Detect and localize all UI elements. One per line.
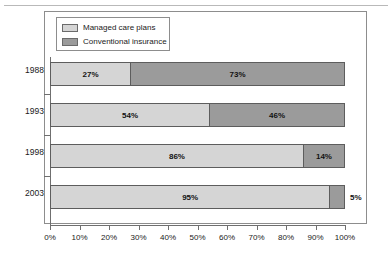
light-gray-swatch-icon [62,24,78,32]
stacked-bar-1998: 86% 14% [50,144,345,168]
x-axis-label-60: 60% [219,233,235,242]
bar-row-1993: 54% 46% [50,103,345,127]
bars-container: 27% 73% 54% 46% 86% [50,57,345,225]
x-axis-label-0: 0% [44,233,56,242]
bar-segment-managed-1993: 54% [51,104,209,126]
x-axis-label-50: 50% [189,233,205,242]
x-axis-tick [139,225,140,230]
x-axis-tick [316,225,317,230]
x-axis-tick [50,225,51,230]
bar-value-label-managed-1998: 86% [169,152,185,161]
y-axis-label-2003: 2003 [4,188,44,198]
bar-segment-managed-2003: 95% [51,186,329,208]
x-axis-tick [286,225,287,230]
bar-value-label-managed-1988: 27% [83,70,99,79]
bar-value-label-managed-2003: 95% [182,193,198,202]
stacked-bar-1988: 27% 73% [50,62,345,86]
bar-row-1988: 27% 73% [50,62,345,86]
bar-segment-conventional-2003: 5% [329,186,344,208]
legend-item-conventional-insurance: Conventional insurance [62,35,169,48]
bar-segment-conventional-1993: 46% [209,104,344,126]
y-axis-label-1993: 1993 [4,106,44,116]
stacked-bar-2003: 95% 5% [50,185,345,209]
x-axis-label-90: 90% [307,233,323,242]
x-axis-tick [345,225,346,230]
y-axis-label-1988: 1988 [4,65,44,75]
bar-row-2003: 95% 5% [50,185,345,209]
legend-item-managed-care-plans: Managed care plans [62,21,169,34]
bar-segment-conventional-1988: 73% [130,63,344,85]
y-axis-label-1998: 1998 [4,147,44,157]
bar-value-label-conventional-2003: 5% [350,193,362,202]
bar-segment-managed-1988: 27% [51,63,130,85]
bar-row-1998: 86% 14% [50,144,345,168]
x-axis-label-30: 30% [130,233,146,242]
legend-label-managed-care-plans: Managed care plans [83,23,156,32]
x-axis-label-10: 10% [71,233,87,242]
x-axis-label-40: 40% [160,233,176,242]
bar-segment-managed-1998: 86% [51,145,303,167]
x-axis-tick [227,225,228,230]
bar-value-label-conventional-1993: 46% [269,111,285,120]
top-divider-rule [4,5,388,6]
x-axis-tick [198,225,199,230]
chart-legend: Managed care plans Conventional insuranc… [56,17,170,51]
bar-value-label-conventional-1998: 14% [316,152,332,161]
x-axis-tick [257,225,258,230]
x-axis-tick [168,225,169,230]
stacked-bar-1993: 54% 46% [50,103,345,127]
bar-segment-conventional-1998: 14% [303,145,344,167]
bar-value-label-managed-1993: 54% [122,111,138,120]
chart-figure: Managed care plans Conventional insuranc… [0,0,392,257]
x-axis-label-20: 20% [101,233,117,242]
legend-label-conventional-insurance: Conventional insurance [83,37,167,46]
x-axis-label-80: 80% [278,233,294,242]
x-axis-label-100: 100% [335,233,355,242]
dark-gray-swatch-icon [62,38,78,46]
x-axis-label-70: 70% [248,233,264,242]
bar-value-label-conventional-1988: 73% [230,70,246,79]
x-axis-tick [80,225,81,230]
x-axis-tick [109,225,110,230]
